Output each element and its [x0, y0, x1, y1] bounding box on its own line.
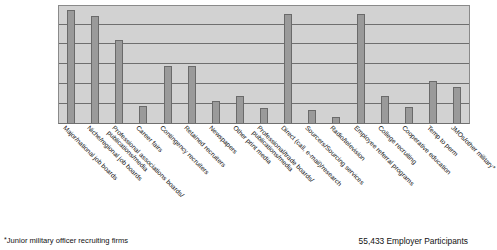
plot-area [58, 5, 470, 124]
bar-cell [252, 6, 276, 123]
bar [91, 16, 99, 123]
category-axis-labels: Major/national job boardsNiche/regional … [58, 124, 470, 228]
bar [115, 40, 123, 123]
bar-cell [349, 6, 373, 123]
bar [332, 117, 340, 123]
category-label: JMOs/other military* [450, 124, 497, 171]
bar [429, 81, 437, 123]
bar [405, 107, 413, 123]
bar [67, 10, 75, 123]
bar-cell [83, 6, 107, 123]
footnote-text: Junior military officer recruiting firms [7, 236, 128, 245]
bar [188, 66, 196, 123]
bar [381, 96, 389, 123]
bar-cell [373, 6, 397, 123]
bar-cell [59, 6, 83, 123]
bar-cell [421, 6, 445, 123]
bar-cell [204, 6, 228, 123]
category-label: Cooperative education [401, 124, 453, 176]
bar-cell [180, 6, 204, 123]
bar [139, 106, 147, 123]
bar [453, 87, 461, 123]
participants-count: 55,433 Employer Participants [359, 236, 468, 246]
bar-cell [397, 6, 421, 123]
bar-cell [324, 6, 348, 123]
bar-cell [131, 6, 155, 123]
bar-cell [107, 6, 131, 123]
bar [357, 14, 365, 123]
bar [260, 108, 268, 123]
bar [164, 66, 172, 123]
bar [308, 110, 316, 123]
bar [236, 96, 244, 123]
category-label: Retained recruiters [183, 124, 228, 169]
bar [212, 101, 220, 123]
bar-cell [445, 6, 469, 123]
bar-series [59, 6, 469, 123]
bar-cell [228, 6, 252, 123]
footnote: *Junior military officer recruiting firm… [4, 236, 128, 245]
bar [284, 14, 292, 123]
bar-cell [276, 6, 300, 123]
bar-cell [300, 6, 324, 123]
bar-cell [156, 6, 180, 123]
